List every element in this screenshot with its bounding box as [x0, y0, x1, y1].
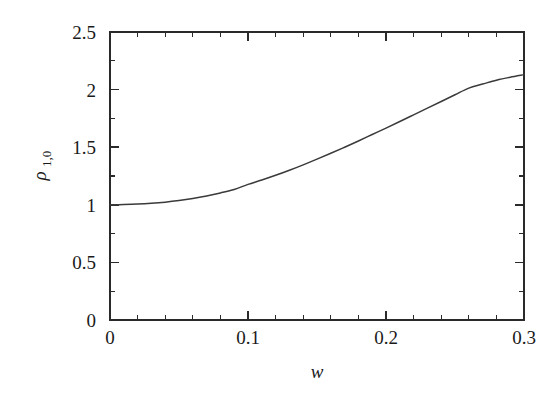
- x-axis-major-ticks: [110, 32, 524, 320]
- data-curve-rho-1-0: [110, 75, 524, 205]
- y-tick-label: 0.5: [72, 252, 96, 273]
- y-axis-major-ticks: [110, 32, 524, 320]
- x-axis-tick-labels: 00.10.20.3: [105, 327, 536, 348]
- y-tick-label: 0: [87, 310, 97, 331]
- y-axis-minor-ticks: [110, 61, 524, 291]
- plot-frame: [110, 32, 524, 320]
- y-axis-title-subscript: 1,0: [39, 151, 54, 167]
- y-axis-title-rho: ρ: [29, 171, 50, 181]
- x-tick-label: 0.2: [374, 327, 398, 348]
- y-axis-tick-labels: 00.511.522.5: [72, 22, 96, 331]
- plot-canvas: 00.10.20.3 00.511.522.5 w ρ 1,0: [0, 0, 560, 398]
- y-axis-title: ρ 1,0: [29, 151, 54, 182]
- x-axis-minor-ticks: [138, 32, 497, 320]
- y-tick-label: 2: [87, 80, 97, 101]
- x-tick-label: 0.1: [236, 327, 260, 348]
- x-tick-label: 0: [105, 327, 115, 348]
- x-tick-label: 0.3: [512, 327, 536, 348]
- chart-figure: 00.10.20.3 00.511.522.5 w ρ 1,0: [0, 0, 560, 398]
- y-tick-label: 1: [87, 195, 97, 216]
- y-tick-label: 1.5: [72, 137, 96, 158]
- x-axis-title: w: [311, 361, 324, 382]
- y-tick-label: 2.5: [72, 22, 96, 43]
